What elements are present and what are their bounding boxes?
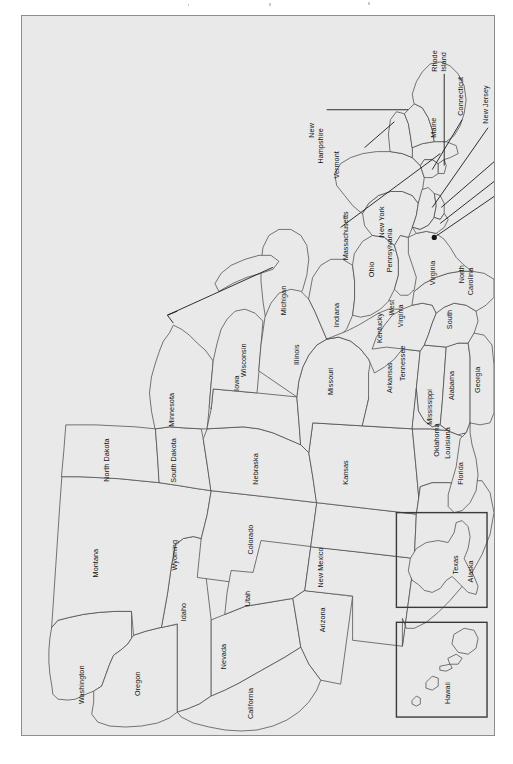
label-tennessee: Tennessee	[399, 345, 407, 381]
label-rhode-island-line2: Island	[440, 52, 448, 72]
label-massachusetts: Massachusetts	[342, 211, 350, 260]
label-vermont: Vermont	[333, 151, 341, 178]
label-iowa: Iowa	[233, 375, 241, 391]
label-illinois: Illinois	[293, 344, 301, 365]
label-west-virginia-line1: West	[388, 300, 395, 315]
label-washington: Washington	[78, 666, 86, 705]
label-wisconsin: Wisconsin	[240, 343, 248, 377]
label-new-hampshire-line2: Hampshire	[317, 128, 325, 164]
label-montana: Montana	[92, 549, 100, 578]
label-south-carolina-line1: South	[446, 310, 454, 329]
united-states-map[interactable]: Maine New Hampshire Vermont Massachusett…	[22, 16, 494, 735]
label-new-hampshire-line1: New	[308, 122, 316, 137]
map-frame: Maine New Hampshire Vermont Massachusett…	[21, 15, 495, 736]
label-idaho: Idaho	[180, 603, 188, 621]
label-oregon: Oregon	[134, 672, 142, 696]
label-utah: Utah	[244, 591, 252, 607]
label-indiana: Indiana	[333, 303, 341, 327]
label-michigan: Michigan	[280, 286, 288, 315]
label-north-dakota: North Dakota	[103, 438, 111, 481]
label-new-jersey: New Jersey	[482, 85, 490, 124]
state-shape-hawaii-kauai[interactable]	[412, 696, 420, 706]
label-louisiana: Louisiana	[444, 427, 452, 459]
label-rhode-island-line1: Rhode	[431, 50, 439, 72]
label-hawaii: Hawaii	[444, 682, 452, 704]
state-shape-minnesota[interactable]	[149, 325, 213, 429]
label-georgia: Georgia	[474, 367, 482, 393]
label-nebraska: Nebraska	[252, 453, 260, 484]
state-shape-hawaii-maui[interactable]	[448, 654, 462, 664]
label-florida: Florida	[457, 462, 465, 485]
label-new-mexico: New Mexico	[317, 547, 325, 587]
scan-artifact-strip	[0, 0, 513, 14]
label-kentucky: Kentucky	[376, 313, 384, 344]
label-virginia: Virginia	[429, 261, 437, 286]
label-mississippi: Mississippi	[426, 389, 434, 425]
state-shape-hawaii-bigisland[interactable]	[452, 628, 478, 654]
label-north-carolina-line1: North	[458, 265, 466, 283]
label-oklahoma: Oklahoma	[433, 423, 441, 456]
label-texas: Texas	[452, 555, 460, 575]
state-shape-hawaii-oahu[interactable]	[426, 676, 438, 690]
label-california: California	[247, 688, 255, 719]
label-alaska: Alaska	[467, 560, 475, 582]
label-arizona: Arizona	[319, 607, 327, 632]
label-kansas: Kansas	[342, 460, 350, 485]
state-shape-south-dakota[interactable]	[155, 427, 211, 491]
label-connecticut: Connecticut	[457, 77, 465, 116]
label-ohio: Ohio	[368, 262, 376, 278]
label-minnesota: Minnesota	[168, 393, 176, 427]
leader-arrow-michigan	[167, 311, 177, 323]
label-west-virginia-line2: Virginia	[397, 304, 405, 327]
label-north-carolina-line2: Carolina	[467, 268, 475, 295]
label-pennsylvania: Pennsylvania	[386, 228, 394, 272]
map-page: Maine New Hampshire Vermont Massachusett…	[0, 0, 513, 764]
state-shape-hawaii-molokai[interactable]	[440, 664, 452, 671]
label-maine: Maine	[430, 118, 438, 138]
state-shape-kansas[interactable]	[309, 423, 421, 515]
label-wyoming: Wyoming	[171, 540, 179, 570]
label-alabama: Alabama	[448, 371, 456, 400]
label-nevada: Nevada	[220, 644, 228, 669]
label-missouri: Missouri	[327, 367, 335, 395]
washington-dc-dot	[432, 235, 437, 240]
label-new-york: New York	[378, 206, 386, 237]
label-south-dakota: South Dakota	[170, 438, 178, 483]
label-arkansas: Arkansas	[386, 362, 394, 393]
label-colorado: Colorado	[247, 525, 255, 555]
